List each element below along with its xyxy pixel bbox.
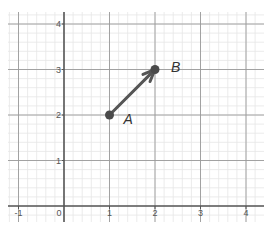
point-label: A [123, 111, 133, 127]
vector-arrow [110, 70, 156, 116]
coordinate-plane: -1012341234 AB [0, 0, 272, 229]
y-tick-label: 4 [56, 19, 61, 29]
x-tick-label: -1 [14, 208, 22, 218]
y-tick-label: 3 [56, 65, 61, 75]
x-tick-label: 0 [56, 208, 61, 218]
x-tick-label: 3 [198, 208, 203, 218]
y-tick-label: 1 [56, 156, 61, 166]
major-grid [8, 12, 264, 222]
x-tick-label: 4 [243, 208, 248, 218]
point-label: B [171, 59, 180, 75]
vectors [110, 70, 156, 116]
minor-grid [8, 12, 264, 222]
x-tick-label: 1 [107, 208, 112, 218]
x-tick-label: 2 [152, 208, 157, 218]
axes [8, 12, 264, 222]
points: AB [105, 59, 180, 128]
y-tick-label: 2 [56, 110, 61, 120]
